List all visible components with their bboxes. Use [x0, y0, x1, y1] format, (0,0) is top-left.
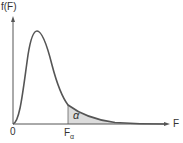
area-label: α — [73, 109, 79, 121]
y-axis-arrow-icon — [11, 16, 15, 22]
x-axis-label: F — [173, 118, 179, 129]
critical-value-label: Fα — [64, 127, 74, 140]
density-curve — [13, 31, 165, 124]
critical-value-sub: α — [70, 133, 74, 140]
f-distribution-chart — [0, 0, 183, 143]
origin-label: 0 — [10, 126, 16, 137]
y-axis-label: f(F) — [1, 1, 17, 12]
